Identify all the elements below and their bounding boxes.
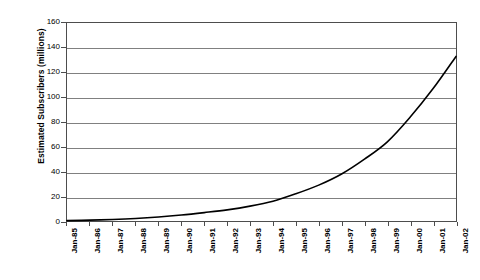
- x-axis-tick-label: Jan-89: [162, 228, 172, 272]
- x-axis-tick-mark: [158, 222, 159, 226]
- x-axis-tick-mark: [273, 222, 274, 226]
- x-axis-tick-label: Jan-90: [185, 228, 195, 272]
- x-axis-tick-label: Jan-92: [231, 228, 241, 272]
- x-axis-tick-mark: [365, 222, 366, 226]
- x-axis-tick-mark: [457, 222, 458, 226]
- y-axis-tick-labels: 020406080100120140160: [38, 0, 60, 280]
- x-axis-tick-mark: [342, 222, 343, 226]
- x-axis-tick-mark: [388, 222, 389, 226]
- x-axis-tick-label: Jan-96: [323, 228, 333, 272]
- series-line-estimated-subscribers: [67, 23, 456, 221]
- x-axis-tick-mark: [227, 222, 228, 226]
- y-axis-tick-label: 120: [38, 68, 60, 76]
- x-axis-tick-mark: [411, 222, 412, 226]
- x-axis-tick-label: Jan-00: [415, 228, 425, 272]
- x-axis-tick-mark: [296, 222, 297, 226]
- y-axis-tick-label: 40: [38, 168, 60, 176]
- y-axis-tick-label: 0: [38, 218, 60, 226]
- x-axis-tick-mark: [112, 222, 113, 226]
- x-axis-tick-label: Jan-94: [277, 228, 287, 272]
- y-axis-tick-label: 160: [38, 18, 60, 26]
- x-axis-tick-label: Jan-88: [139, 228, 149, 272]
- y-axis-tick-label: 140: [38, 43, 60, 51]
- x-axis-tick-label: Jan-97: [346, 228, 356, 272]
- y-axis-tick-label: 20: [38, 193, 60, 201]
- x-axis-tick-label: Jan-87: [116, 228, 126, 272]
- x-axis-tick-label: Jan-01: [438, 228, 448, 272]
- chart-page: Estimated Subscribers (millions) 0204060…: [0, 0, 480, 280]
- x-axis-tick-label: Jan-99: [392, 228, 402, 272]
- y-axis-tick-label: 80: [38, 118, 60, 126]
- x-axis-tick-mark: [250, 222, 251, 226]
- x-axis-tick-label: Jan-02: [461, 228, 471, 272]
- x-axis-tick-mark: [135, 222, 136, 226]
- x-axis-tick-label: Jan-91: [208, 228, 218, 272]
- y-axis-tick-label: 60: [38, 143, 60, 151]
- x-axis-tick-mark: [89, 222, 90, 226]
- plot-area: [66, 22, 457, 222]
- x-axis-tick-label: Jan-93: [254, 228, 264, 272]
- x-axis-tick-mark: [434, 222, 435, 226]
- x-axis-tick-label: Jan-86: [93, 228, 103, 272]
- y-axis-tick-label: 100: [38, 93, 60, 101]
- x-axis-tick-mark: [66, 222, 67, 226]
- x-axis-tick-mark: [181, 222, 182, 226]
- x-axis-tick-mark: [204, 222, 205, 226]
- x-axis-tick-label: Jan-98: [369, 228, 379, 272]
- x-axis-tick-label: Jan-95: [300, 228, 310, 272]
- x-axis-tick-label: Jan-85: [70, 228, 80, 272]
- x-axis-tick-mark: [319, 222, 320, 226]
